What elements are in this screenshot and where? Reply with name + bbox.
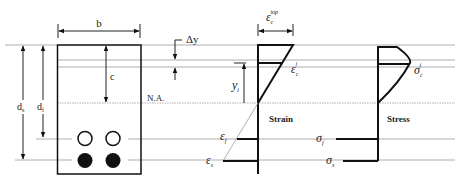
- steel-bar-2: [106, 153, 121, 168]
- c-label: c: [110, 71, 115, 82]
- strain-title: Strain: [269, 114, 293, 124]
- stress-title: Stress: [387, 114, 410, 124]
- stress-steel-label: σs: [326, 153, 335, 168]
- b-label: b: [96, 17, 102, 29]
- rc-section-strain-stress-diagram: b c ds df N.A. Δy εctop εci yi: [0, 0, 469, 179]
- strain-frp-label: εf: [220, 129, 228, 144]
- delta-y-dimension: Δy: [175, 33, 199, 80]
- cross-section: b c ds df N.A.: [15, 17, 165, 174]
- stress-layer-label: σci: [414, 62, 423, 78]
- reference-lines: [5, 45, 455, 160]
- stress-profile: σci Stress σf σs: [316, 47, 423, 168]
- yi-label: yi: [231, 78, 239, 93]
- strain-profile: εctop εci yi Strain εf εs: [206, 9, 299, 174]
- frp-bar-1: [78, 132, 92, 146]
- strain-compression-block: [258, 45, 293, 174]
- section-outline: [58, 45, 142, 174]
- strain-steel-label: εs: [206, 153, 214, 168]
- frp-bar-2: [106, 132, 120, 146]
- delta-y-label: Δy: [186, 33, 199, 45]
- strain-tension-line: [223, 103, 258, 161]
- strain-top-label: εctop: [266, 9, 278, 25]
- steel-bar-1: [78, 153, 93, 168]
- strain-layer-label: εci: [291, 61, 299, 77]
- neutral-axis-label: N.A.: [147, 93, 165, 103]
- stress-frp-label: σf: [316, 131, 325, 146]
